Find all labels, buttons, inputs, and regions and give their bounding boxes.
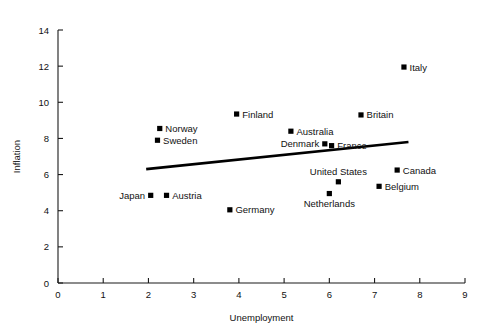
data-point: Germany [227, 204, 275, 215]
point-label-britain: Britain [367, 109, 394, 120]
data-point: Austria [164, 190, 202, 201]
x-axis-title: Unemployment [230, 312, 294, 323]
y-tick-label: 2 [44, 241, 49, 252]
y-tick-label: 10 [38, 97, 49, 108]
point-label-sweden: Sweden [163, 135, 197, 146]
point-label-united-states: United States [310, 166, 367, 177]
point-label-norway: Norway [165, 123, 197, 134]
data-point: Italy [401, 62, 427, 73]
point-label-austria: Austria [172, 190, 202, 201]
x-tick-label: 2 [146, 289, 151, 300]
regression-line [146, 142, 408, 169]
scatter-chart: 012345678902468101214 ItalyBritainFinlan… [0, 0, 491, 329]
point-marker-japan [148, 193, 153, 198]
point-marker-germany [227, 207, 232, 212]
data-point: Denmark [281, 138, 328, 149]
point-label-finland: Finland [242, 109, 273, 120]
x-tick-label: 3 [191, 289, 196, 300]
point-label-netherlands: Netherlands [304, 198, 355, 209]
x-tick-label: 4 [236, 289, 241, 300]
point-marker-finland [234, 111, 239, 116]
chart-canvas: 012345678902468101214 ItalyBritainFinlan… [0, 0, 491, 329]
data-points: ItalyBritainFinlandNorwayAustraliaSweden… [119, 62, 437, 216]
point-marker-united-states [336, 179, 341, 184]
data-point: Netherlands [304, 191, 355, 209]
data-point: Belgium [376, 181, 419, 192]
x-tick-label: 7 [372, 289, 377, 300]
data-point: Australia [288, 126, 334, 137]
point-label-denmark: Denmark [281, 138, 320, 149]
point-marker-austria [164, 193, 169, 198]
data-point: Canada [395, 165, 437, 176]
point-label-canada: Canada [403, 165, 437, 176]
point-marker-canada [395, 167, 400, 172]
data-point: Sweden [155, 135, 198, 146]
point-label-germany: Germany [235, 204, 274, 215]
point-marker-denmark [322, 141, 327, 146]
y-tick-label: 12 [38, 61, 49, 72]
y-tick-label: 6 [44, 169, 49, 180]
data-point: United States [310, 166, 367, 184]
data-point: Finland [234, 109, 273, 120]
y-tick-label: 14 [38, 25, 49, 36]
point-marker-france [329, 143, 334, 148]
point-marker-belgium [376, 184, 381, 189]
x-tick-label: 5 [281, 289, 286, 300]
point-label-japan: Japan [119, 190, 145, 201]
point-label-italy: Italy [410, 62, 428, 73]
data-point: Japan [119, 190, 153, 201]
x-tick-label: 1 [101, 289, 106, 300]
point-marker-norway [157, 126, 162, 131]
point-label-belgium: Belgium [385, 181, 419, 192]
point-marker-italy [401, 64, 406, 69]
trend-line [146, 142, 408, 169]
point-marker-netherlands [327, 191, 332, 196]
x-tick-label: 6 [327, 289, 332, 300]
point-label-australia: Australia [296, 126, 334, 137]
x-tick-label: 9 [462, 289, 467, 300]
point-marker-australia [288, 129, 293, 134]
point-marker-sweden [155, 138, 160, 143]
y-tick-label: 0 [44, 278, 49, 289]
y-tick-label: 4 [44, 205, 49, 216]
data-point: Norway [157, 123, 198, 134]
x-tick-label: 8 [417, 289, 422, 300]
x-tick-label: 0 [55, 289, 60, 300]
point-label-france: France [337, 140, 367, 151]
data-point: Britain [358, 109, 393, 120]
y-tick-label: 8 [44, 133, 49, 144]
y-axis-title: Inflation [11, 140, 22, 173]
point-marker-britain [358, 112, 363, 117]
